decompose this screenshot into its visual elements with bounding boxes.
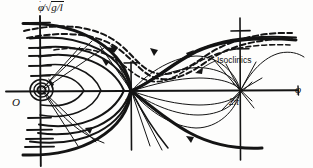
pi-gridline: [131, 62, 132, 150]
phase-plane-figure: .ink{ fill:none; stroke:#141414; stroke-…: [0, 0, 313, 168]
x-axis-end-tick: [298, 86, 299, 95]
x-axis-line: [6, 90, 298, 91]
x-axis-end: [298, 86, 299, 95]
